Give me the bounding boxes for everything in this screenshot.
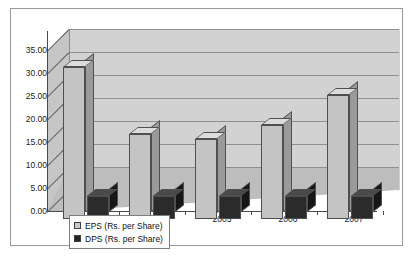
y-axis-tick-label: 15.00 (7, 138, 47, 147)
y-axis-tick-label: 25.00 (7, 92, 47, 101)
bar-front-face (261, 125, 283, 219)
bar-front-face (129, 134, 151, 219)
y-axis-tick-label: 5.00 (7, 184, 47, 193)
chart-frame: 0.005.0010.0015.0020.0025.0030.0035.00 2… (10, 8, 403, 246)
bar-front-face (219, 196, 241, 219)
bar-dps-2006 (285, 189, 316, 219)
bar-front-face (327, 95, 349, 219)
bar-side-face (109, 182, 118, 212)
gridline (69, 52, 399, 53)
y-axis-line (47, 31, 48, 212)
bar-side-face (307, 182, 316, 212)
bar-front-face (351, 196, 373, 219)
y-axis-tick-label: 35.00 (7, 46, 47, 55)
bar-dps-2005 (219, 189, 250, 219)
legend-label-dps: DPS (Rs. per Share) (85, 234, 163, 244)
bar-side-face (373, 182, 382, 212)
bar-dps-2007 (351, 189, 382, 219)
bar-front-face (285, 196, 307, 219)
chart-plot-area: 0.005.0010.0015.0020.0025.0030.0035.00 2… (11, 9, 404, 247)
bar-front-face (195, 139, 217, 220)
bar-side-face (175, 182, 184, 212)
y-axis-tick-label: 20.00 (7, 115, 47, 124)
bar-front-face (63, 67, 85, 219)
legend-item-eps: EPS (Rs. per Share) (74, 219, 163, 232)
bar-side-face (241, 182, 250, 212)
gridline (69, 75, 399, 76)
legend-swatch-eps (74, 222, 81, 229)
legend-swatch-dps (74, 235, 81, 242)
y-axis-tick-label: 10.00 (7, 161, 47, 170)
gridline (69, 29, 399, 30)
legend-label-eps: EPS (Rs. per Share) (85, 221, 162, 231)
legend-item-dps: DPS (Rs. per Share) (74, 232, 163, 245)
y-axis-tick-label: 0.00 (7, 207, 47, 216)
y-axis-tick-label: 30.00 (7, 69, 47, 78)
y-axis-labels: 0.005.0010.0015.0020.0025.0030.0035.00 (11, 9, 47, 247)
chart-legend: EPS (Rs. per Share) DPS (Rs. per Share) (69, 215, 170, 249)
